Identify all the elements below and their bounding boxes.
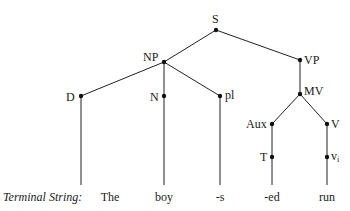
node-label-pl: pl: [225, 89, 234, 101]
edge-s-vp: [216, 30, 300, 60]
node-label-n: N: [150, 91, 159, 103]
node-dot-np: [162, 60, 166, 64]
node-label-v: V: [331, 118, 340, 130]
edge-np-pl: [164, 62, 220, 96]
terminal-morpheme-s: -s: [216, 191, 225, 203]
node-label-aux: Aux: [246, 118, 267, 130]
syntax-tree-diagram: S NP VP D N pl MV Aux V T vi Terminal St…: [0, 0, 350, 211]
node-dot-v: [325, 122, 329, 126]
node-dot-d: [79, 94, 83, 98]
node-dot-t: [270, 155, 274, 159]
node-label-np: NP: [143, 51, 158, 63]
edge-mv-v: [300, 94, 327, 124]
node-dot-n: [162, 94, 166, 98]
tree-edges: [0, 0, 350, 211]
node-label-s: S: [212, 13, 219, 25]
node-dot-vi: [325, 155, 329, 159]
node-label-mv: MV: [304, 85, 323, 97]
node-dot-pl: [218, 94, 222, 98]
node-label-vp: VP: [304, 54, 319, 66]
node-label-vi-subscript: i: [337, 155, 339, 164]
terminal-morpheme-ed: -ed: [264, 191, 279, 203]
node-dot-aux: [270, 122, 274, 126]
edge-s-np: [164, 30, 216, 62]
terminal-word-run: run: [319, 191, 335, 203]
terminal-word-the: The: [101, 191, 120, 203]
node-dot-mv: [298, 92, 302, 96]
node-label-t: T: [260, 151, 267, 163]
node-dot-s: [214, 28, 218, 32]
node-dot-vp: [298, 58, 302, 62]
node-label-vi: vi: [331, 150, 339, 166]
terminal-word-boy: boy: [155, 191, 173, 203]
terminal-string-caption: Terminal String:: [3, 191, 82, 203]
edge-mv-aux: [272, 94, 300, 124]
node-label-d: D: [66, 91, 75, 103]
